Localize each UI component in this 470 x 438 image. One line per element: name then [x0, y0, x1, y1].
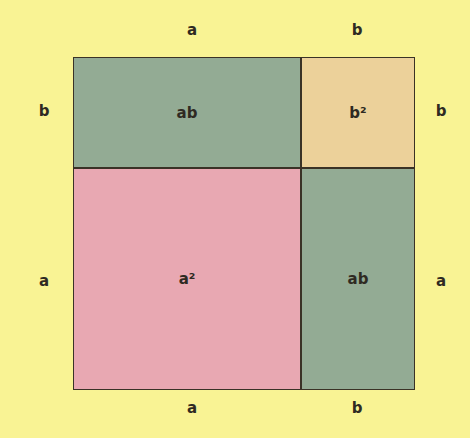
right-label-b: b — [436, 104, 447, 119]
left-label-b: b — [39, 104, 50, 119]
left-label-a: a — [39, 274, 49, 289]
outer-square-frame — [73, 57, 415, 390]
top-label-a: a — [187, 23, 197, 38]
bottom-label-b: b — [352, 401, 363, 416]
bottom-label-a: a — [187, 401, 197, 416]
top-label-b: b — [352, 23, 363, 38]
right-label-a: a — [436, 274, 446, 289]
